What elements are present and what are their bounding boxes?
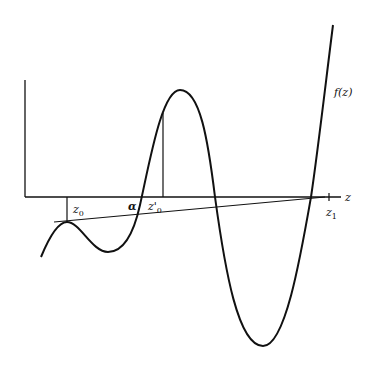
- function-label: f(z): [333, 86, 352, 99]
- z0prime-label: z'0: [147, 200, 162, 215]
- function-diagram: f(z) z z0 α z'0 z1: [0, 0, 371, 366]
- secant-line: [54, 197, 325, 222]
- axis-label: z: [344, 191, 351, 204]
- function-curve: [41, 25, 333, 346]
- z0-label: z0: [72, 203, 84, 218]
- alpha-label: α: [128, 200, 137, 213]
- z1-label: z1: [325, 206, 337, 221]
